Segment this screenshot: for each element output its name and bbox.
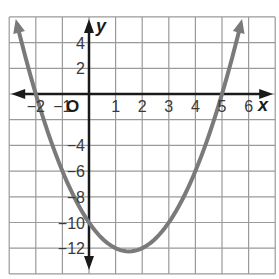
x-axis-label: x xyxy=(257,95,269,115)
curve-arrow-icon xyxy=(13,19,25,34)
x-tick-label: 5 xyxy=(218,98,227,115)
curve-arrow-icon xyxy=(233,19,245,34)
y-tick-label: −8 xyxy=(67,189,85,206)
y-tick-label: 4 xyxy=(76,35,85,52)
y-axis-up-arrow-icon xyxy=(84,19,94,33)
y-tick-label: −10 xyxy=(58,215,85,232)
x-tick-label: 4 xyxy=(191,98,200,115)
parabola-curve xyxy=(17,25,240,252)
y-tick-label: −12 xyxy=(58,240,85,257)
x-tick-label: 3 xyxy=(164,98,173,115)
y-tick-label: −6 xyxy=(67,163,85,180)
x-tick-label: 1 xyxy=(111,98,120,115)
y-tick-label: 2 xyxy=(76,60,85,77)
grid-lines xyxy=(9,17,275,274)
x-tick-label: 6 xyxy=(244,98,253,115)
origin-label: O xyxy=(66,97,79,116)
y-axis-label: y xyxy=(95,16,107,36)
x-axis-left-arrow-icon xyxy=(11,89,25,99)
y-axis-down-arrow-icon xyxy=(84,256,94,270)
x-tick-label: 2 xyxy=(138,98,147,115)
x-tick-label: −2 xyxy=(27,98,45,115)
curve-arrowheads xyxy=(13,19,244,34)
parabola-graph: −2−112345642−4−6−8−10−12 x y O xyxy=(0,0,279,279)
y-tick-label: −4 xyxy=(67,137,85,154)
